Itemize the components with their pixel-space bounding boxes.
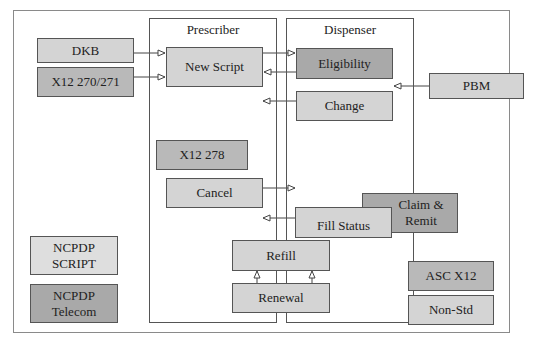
prescriber-title: Prescriber: [150, 22, 276, 38]
node-fill-status: Fill Status: [295, 207, 392, 238]
legend-ncpdp-script-label: NCPDP SCRIPT: [44, 240, 104, 272]
node-x12-270-271: X12 270/271: [37, 67, 134, 97]
legend-ncpdp-script: NCPDP SCRIPT: [30, 236, 118, 275]
node-renewal: Renewal: [232, 283, 330, 313]
legend-ncpdp-telecom: NCPDP Telecom: [30, 284, 118, 323]
node-refill: Refill: [232, 240, 330, 271]
node-cancel: Cancel: [166, 178, 263, 208]
node-eligibility: Eligibility: [296, 48, 393, 79]
legend-asc-x12: ASC X12: [408, 261, 494, 291]
legend-non-std: Non-Std: [408, 295, 494, 325]
node-new-script: New Script: [166, 47, 263, 87]
node-x12-278: X12 278: [156, 140, 248, 170]
dispenser-title: Dispenser: [287, 22, 413, 38]
node-change: Change: [296, 91, 393, 121]
claim-remit-label: Claim & Remit: [395, 197, 447, 229]
legend-ncpdp-telecom-label: NCPDP Telecom: [44, 288, 104, 320]
node-dkb: DKB: [37, 38, 134, 63]
node-pbm: PBM: [429, 73, 524, 99]
